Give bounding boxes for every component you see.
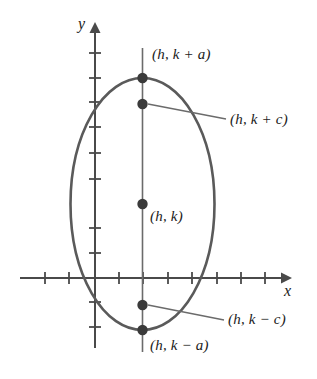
label-x-axis: x	[284, 283, 291, 299]
point-upper-focus	[137, 99, 147, 109]
label-upper-vertex: (h, k + a)	[152, 47, 211, 62]
point-lower-vertex	[137, 325, 147, 335]
y-axis-arrow-head	[90, 22, 101, 33]
label-lower-vertex: (h, k − a)	[150, 338, 209, 353]
label-upper-focus: (h, k + c)	[230, 112, 288, 127]
x-axis-group	[20, 272, 292, 284]
point-center	[137, 199, 147, 209]
point-upper-vertex	[137, 73, 147, 83]
lower-focus-leader-line	[148, 305, 224, 320]
ellipse-figure: (h, k + a) (h, k + c) (h, k) (h, k − c) …	[0, 0, 317, 379]
point-lower-focus	[137, 300, 147, 310]
label-center: (h, k)	[150, 209, 183, 224]
label-lower-focus: (h, k − c)	[228, 312, 286, 327]
label-y-axis: y	[78, 16, 85, 32]
